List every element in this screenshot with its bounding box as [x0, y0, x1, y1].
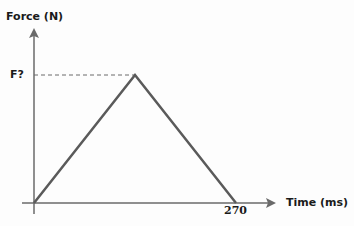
x-tick-270: 270 [224, 204, 247, 217]
force-time-diagram: Force (N) F? 270 Time (ms) [0, 0, 354, 226]
diagram-canvas [0, 0, 354, 226]
y-axis-label: Force (N) [6, 10, 63, 23]
peak-force-label: F? [10, 68, 24, 81]
x-axis-label: Time (ms) [286, 196, 348, 209]
force-curve [34, 75, 236, 203]
